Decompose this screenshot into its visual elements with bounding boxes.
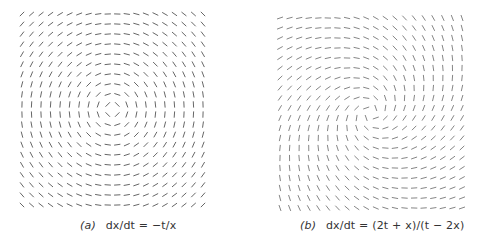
slope-mark [308, 116, 310, 121]
slope-mark [192, 22, 196, 26]
slope-mark [48, 22, 52, 25]
slope-mark [115, 124, 120, 126]
slope-mark [394, 85, 396, 90]
slope-mark [134, 13, 139, 14]
slope-mark [163, 33, 167, 36]
slope-mark [146, 102, 147, 107]
caption-a: (a) dx/dt = −t/x [80, 219, 177, 232]
slope-mark [461, 35, 462, 40]
slope-mark [364, 167, 369, 170]
slope-mark [383, 158, 389, 159]
slope-mark [77, 33, 82, 35]
slope-mark [68, 163, 72, 167]
slope-mark [393, 26, 397, 30]
slope-mark [68, 53, 72, 57]
slope-mark [326, 96, 330, 100]
slope-mark [202, 52, 205, 57]
caption-b-equation: dx/dt = (2t + x)/(t − 2x) [326, 219, 465, 232]
slope-mark [60, 112, 61, 118]
slope-mark [442, 95, 444, 100]
slope-mark [335, 18, 341, 19]
slope-mark [153, 173, 158, 176]
slope-mark [86, 53, 91, 55]
slope-mark [373, 17, 378, 20]
slope-mark [60, 102, 61, 108]
slope-mark [355, 146, 359, 150]
slope-mark [316, 47, 321, 48]
slope-mark [318, 145, 319, 150]
slope-mark [58, 13, 63, 16]
slope-mark [422, 16, 425, 21]
slope-mark [164, 82, 166, 87]
slope-mark [173, 142, 176, 147]
slope-mark [163, 42, 167, 46]
slope-mark [317, 115, 319, 120]
slope-mark [115, 103, 119, 107]
slope-mark [336, 196, 340, 200]
slope-mark [124, 73, 129, 75]
slope-mark [440, 187, 445, 189]
slope-mark [364, 47, 369, 49]
slope-mark [30, 163, 33, 168]
slope-mark [335, 77, 340, 79]
slope-mark [279, 205, 281, 210]
slope-mark [289, 185, 290, 190]
slope-mark [279, 116, 281, 121]
slope-mark [431, 167, 436, 169]
slope-mark [124, 44, 129, 45]
slope-mark [288, 96, 291, 100]
slope-mark [287, 47, 292, 49]
slope-mark [460, 177, 465, 180]
slope-mark [423, 55, 425, 60]
slope-mark [30, 22, 34, 26]
slope-mark [183, 152, 186, 157]
slope-mark [49, 163, 53, 167]
slope-mark [115, 64, 121, 65]
slope-mark [105, 44, 111, 45]
slope-mark [183, 122, 184, 127]
slope-mark [423, 105, 425, 110]
slope-mark [144, 163, 149, 166]
slope-mark [364, 87, 369, 88]
slope-mark [153, 53, 157, 57]
slope-mark [87, 133, 91, 137]
slope-mark [308, 196, 310, 201]
slope-mark [364, 197, 369, 200]
slope-mark [326, 186, 329, 191]
slope-mark [309, 135, 310, 140]
slope-mark [134, 184, 139, 186]
slope-mark [105, 64, 111, 65]
slope-mark [344, 38, 350, 39]
slope-mark [69, 122, 71, 127]
slope-mark [412, 16, 415, 20]
slope-mark [326, 196, 329, 200]
slope-mark [432, 106, 434, 111]
slope-mark [163, 153, 166, 157]
slope-mark [375, 105, 377, 110]
slope-mark [143, 23, 148, 25]
slope-mark [124, 184, 129, 185]
slope-mark [336, 186, 339, 190]
caption-b: (b) dx/dt = (2t + x)/(t − 2x) [300, 219, 465, 232]
slope-mark [346, 135, 348, 140]
slope-mark [433, 85, 434, 90]
slope-mark [124, 24, 129, 25]
slope-mark [384, 76, 388, 80]
slope-mark [374, 86, 378, 89]
slope-mark [135, 92, 138, 97]
slope-mark [77, 174, 82, 177]
slope-mark [354, 58, 359, 59]
slope-mark [306, 57, 311, 59]
slope-mark [452, 55, 453, 60]
slope-mark [346, 115, 348, 120]
slope-mark [124, 63, 129, 65]
slope-mark [298, 185, 300, 190]
slope-mark [355, 156, 359, 160]
slope-mark [279, 125, 281, 130]
slope-mark [383, 168, 388, 169]
slope-mark [106, 113, 110, 117]
slope-mark [20, 173, 23, 178]
slope-mark [299, 155, 300, 160]
slope-mark [86, 194, 91, 196]
slope-mark [163, 204, 168, 207]
